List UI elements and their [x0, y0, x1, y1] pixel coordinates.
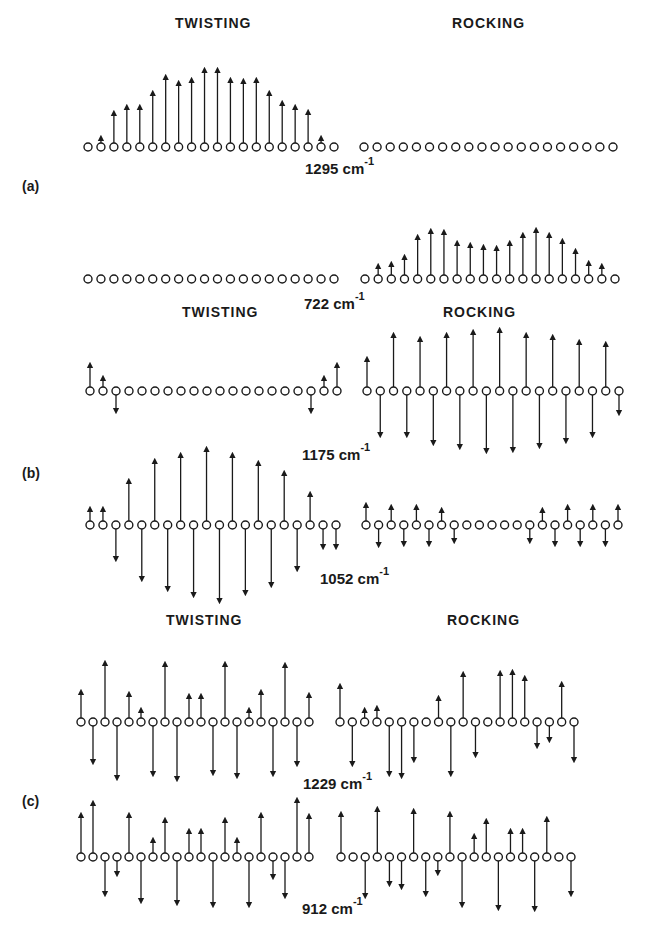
atom-circle-icon	[576, 521, 584, 529]
atom-circle-icon	[280, 521, 288, 529]
atom-circle-icon	[494, 853, 502, 861]
atom-circle-icon	[508, 718, 516, 726]
atom-circle-icon	[209, 718, 217, 726]
atom-circle-icon	[598, 275, 606, 283]
atom-circle-icon	[410, 853, 418, 861]
atom-circle-icon	[216, 387, 224, 395]
atom-circle-icon	[558, 718, 566, 726]
atom-circle-icon	[373, 853, 381, 861]
atom-circle-icon	[221, 718, 229, 726]
atom-circle-icon	[197, 853, 205, 861]
atom-circle-icon	[363, 387, 371, 395]
atom-circle-icon	[226, 143, 234, 151]
atom-chain-c-912-rocking	[337, 809, 575, 909]
atom-circle-icon	[86, 521, 94, 529]
atom-circle-icon	[162, 275, 170, 283]
atom-circle-icon	[190, 521, 198, 529]
atom-circle-icon	[463, 521, 471, 529]
atom-circle-icon	[265, 275, 273, 283]
atom-circle-icon	[228, 521, 236, 529]
atom-circle-icon	[400, 521, 408, 529]
atom-circle-icon	[422, 718, 430, 726]
atom-circle-icon	[149, 853, 157, 861]
atom-circle-icon	[479, 275, 487, 283]
atom-circle-icon	[425, 521, 433, 529]
atom-circle-icon	[164, 387, 172, 395]
atom-circle-icon	[278, 275, 286, 283]
atom-circle-icon	[149, 718, 157, 726]
atom-circle-icon	[113, 853, 121, 861]
atom-circle-icon	[588, 387, 596, 395]
atom-circle-icon	[137, 718, 145, 726]
atom-circle-icon	[349, 853, 357, 861]
atom-circle-icon	[291, 143, 299, 151]
atom-circle-icon	[149, 143, 157, 151]
atom-circle-icon	[175, 143, 183, 151]
atom-circle-icon	[89, 853, 97, 861]
atom-circle-icon	[385, 718, 393, 726]
atom-circle-icon	[361, 853, 369, 861]
atom-circle-icon	[545, 718, 553, 726]
atom-circle-icon	[551, 521, 559, 529]
atom-circle-icon	[446, 853, 454, 861]
atom-circle-icon	[530, 143, 538, 151]
atom-circle-icon	[535, 387, 543, 395]
atom-circle-icon	[614, 521, 622, 529]
atom-circle-icon	[333, 387, 341, 395]
atom-circle-icon	[438, 521, 446, 529]
atom-circle-icon	[414, 275, 422, 283]
atom-circle-icon	[543, 853, 551, 861]
atom-circle-icon	[458, 853, 466, 861]
atom-circle-icon	[555, 853, 563, 861]
atom-circle-icon	[173, 853, 181, 861]
atom-circle-icon	[257, 853, 265, 861]
atom-circle-icon	[149, 275, 157, 283]
atom-circle-icon	[386, 143, 394, 151]
atom-circle-icon	[125, 718, 133, 726]
atom-circle-icon	[281, 718, 289, 726]
atom-chain-b-1175-twisting	[86, 365, 341, 411]
atom-circle-icon	[398, 718, 406, 726]
atom-circle-icon	[469, 387, 477, 395]
atom-circle-icon	[97, 143, 105, 151]
atom-circle-icon	[488, 521, 496, 529]
atom-circle-icon	[226, 275, 234, 283]
atom-circle-icon	[602, 387, 610, 395]
atom-circle-icon	[496, 387, 504, 395]
atom-circle-icon	[203, 387, 211, 395]
atom-circle-icon	[385, 853, 393, 861]
atom-circle-icon	[615, 387, 623, 395]
atom-circle-icon	[242, 387, 250, 395]
atom-circle-icon	[136, 275, 144, 283]
atom-circle-icon	[265, 143, 273, 151]
atom-circle-icon	[138, 521, 146, 529]
atom-circle-icon	[519, 853, 527, 861]
atom-circle-icon	[583, 143, 591, 151]
atom-circle-icon	[348, 718, 356, 726]
atom-circle-icon	[375, 521, 383, 529]
atom-circle-icon	[252, 275, 260, 283]
atom-chain-b-1052-twisting	[86, 449, 340, 601]
atom-circle-icon	[360, 143, 368, 151]
atom-circle-icon	[77, 718, 85, 726]
atom-circle-icon	[305, 718, 313, 726]
atom-circle-icon	[517, 143, 525, 151]
atom-circle-icon	[291, 275, 299, 283]
atom-circle-icon	[125, 853, 133, 861]
atom-circle-icon	[203, 521, 211, 529]
atom-circle-icon	[482, 853, 490, 861]
atom-circle-icon	[440, 275, 448, 283]
atom-chain-c-912-twisting	[77, 800, 313, 905]
atom-circle-icon	[387, 521, 395, 529]
atom-circle-icon	[361, 275, 369, 283]
atom-circle-icon	[611, 275, 619, 283]
atom-circle-icon	[161, 853, 169, 861]
atom-circle-icon	[533, 718, 541, 726]
atom-circle-icon	[390, 387, 398, 395]
atom-circle-icon	[241, 521, 249, 529]
atom-circle-icon	[545, 275, 553, 283]
atom-circle-icon	[125, 521, 133, 529]
atom-circle-icon	[482, 387, 490, 395]
atom-circle-icon	[161, 718, 169, 726]
atom-circle-icon	[305, 853, 313, 861]
